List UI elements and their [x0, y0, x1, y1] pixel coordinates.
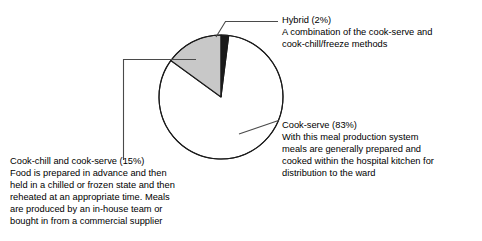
callout-cook-serve-line-4: distribution to the ward [282, 167, 434, 179]
callout-cook-chill[interactable]: Cook-chill and cook-serve (15%) Food is … [10, 155, 175, 228]
callout-cook-serve-line-2: meals are generally prepared and [282, 143, 434, 155]
callout-cook-chill-line-1: Food is prepared in advance and then [10, 167, 175, 179]
callout-hybrid-line-2: cook-chill/freeze methods [282, 38, 432, 50]
callout-cook-chill-line-5: bought in from a commercial supplier [10, 215, 175, 227]
callout-cook-serve[interactable]: Cook-serve (83%) With this meal producti… [282, 119, 434, 179]
callout-cook-chill-line-4: are produced by an in-house team or [10, 203, 175, 215]
callout-cook-chill-title: Cook-chill and cook-serve (15%) [10, 155, 175, 167]
pie-chart-figure: Hybrid (2%) A combination of the cook-se… [0, 0, 482, 241]
callout-cook-serve-title: Cook-serve (83%) [282, 119, 434, 131]
callout-cook-chill-line-2: held in a chilled or frozen state and th… [10, 179, 175, 191]
callout-cook-serve-line-1: With this meal production system [282, 131, 434, 143]
callout-hybrid-line-1: A combination of the cook-serve and [282, 26, 432, 38]
callout-cook-chill-line-3: reheated at an appropriate time. Meals [10, 191, 175, 203]
callout-hybrid-title: Hybrid (2%) [282, 14, 432, 26]
callout-hybrid[interactable]: Hybrid (2%) A combination of the cook-se… [282, 14, 432, 50]
callout-cook-serve-line-3: cooked within the hospital kitchen for [282, 155, 434, 167]
